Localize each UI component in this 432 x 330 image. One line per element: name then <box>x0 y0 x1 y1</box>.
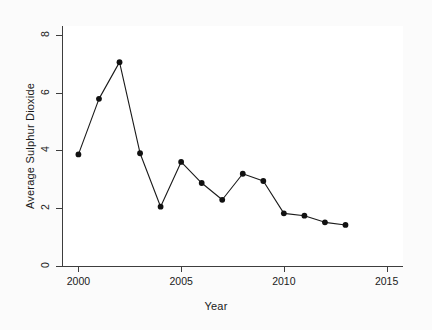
data-point-marker <box>178 159 184 165</box>
data-point-marker <box>219 197 225 203</box>
data-point-marker <box>137 150 143 156</box>
data-point-marker <box>260 178 266 184</box>
x-tick-label: 2015 <box>367 275 407 287</box>
data-point-marker <box>343 222 349 228</box>
data-point-marker <box>117 59 123 65</box>
data-point-marker <box>158 204 164 210</box>
data-point-marker <box>302 213 308 219</box>
data-point-marker <box>322 219 328 225</box>
data-point-marker <box>96 96 102 102</box>
data-point-marker <box>76 151 82 157</box>
y-tick-label: 4 <box>39 142 51 156</box>
plot-area-background <box>62 26 403 266</box>
y-axis-label: Average Sulphur Dioxide <box>24 83 36 209</box>
data-point-marker <box>281 210 287 216</box>
x-tick-label: 2005 <box>161 275 201 287</box>
y-tick-label: 8 <box>39 27 51 41</box>
x-axis-label: Year <box>0 300 432 312</box>
data-point-marker <box>199 180 205 186</box>
x-tick-label: 2000 <box>58 275 98 287</box>
y-tick-label: 2 <box>39 200 51 214</box>
data-point-marker <box>240 171 246 177</box>
y-tick-label: 6 <box>39 85 51 99</box>
y-tick-label: 0 <box>39 258 51 272</box>
x-tick-label: 2010 <box>264 275 304 287</box>
chart-figure: Average Sulphur Dioxide Year 02468 20002… <box>0 0 432 330</box>
